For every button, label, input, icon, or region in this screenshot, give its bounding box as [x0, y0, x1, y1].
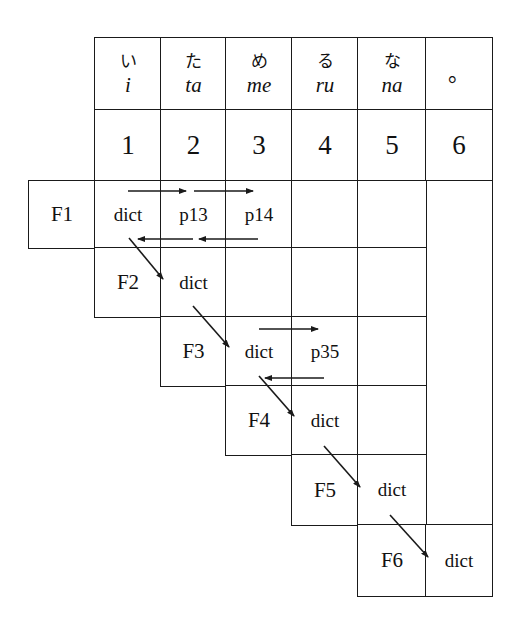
- cell-f2-4: [291, 247, 359, 318]
- index-2: 2: [160, 109, 227, 182]
- index-5: 5: [357, 109, 427, 182]
- romaji: ta: [185, 72, 201, 98]
- cell-f6-6: dict: [425, 524, 493, 597]
- cell-f5-5: dict: [357, 454, 427, 526]
- header-col-4: る ru: [291, 37, 359, 111]
- romaji: i: [125, 72, 131, 98]
- romaji: na: [382, 72, 403, 98]
- cell-f1-5: [357, 180, 427, 249]
- romaji: me: [247, 72, 272, 98]
- kana: な: [384, 50, 401, 72]
- cell-f2-3: [225, 247, 293, 318]
- cell-f3-3: dict: [225, 316, 293, 387]
- cell-f4-5: [357, 385, 427, 456]
- index-3: 3: [225, 109, 293, 182]
- cell-f3-4: p35: [291, 316, 359, 387]
- row-label-f2: F2: [94, 247, 162, 318]
- row-label-f5: F5: [291, 454, 359, 526]
- cell-f1-4: [291, 180, 359, 249]
- cell-f4-4: dict: [291, 385, 359, 456]
- row-label-f3: F3: [160, 316, 227, 387]
- kana: た: [185, 50, 202, 72]
- index-1: 1: [94, 109, 162, 182]
- row-label-f4: F4: [225, 385, 293, 456]
- header-col-6: 。: [425, 37, 493, 111]
- row-label-f1: F1: [28, 180, 96, 249]
- index-4: 4: [291, 109, 359, 182]
- col-6-span: [425, 180, 493, 526]
- kana: め: [251, 50, 268, 72]
- cell-f1-3: p14: [225, 180, 293, 249]
- row-label-f6: F6: [357, 524, 427, 597]
- header-col-3: め me: [225, 37, 293, 111]
- kana: る: [317, 50, 334, 72]
- period-mark: 。: [448, 61, 470, 87]
- cell-f1-1: dict: [94, 180, 162, 249]
- cell-f2-5: [357, 247, 427, 318]
- header-col-2: た ta: [160, 37, 227, 111]
- header-col-5: な na: [357, 37, 427, 111]
- index-6: 6: [425, 109, 493, 182]
- header-col-1: い i: [94, 37, 162, 111]
- cell-f1-2: p13: [160, 180, 227, 249]
- romaji: ru: [316, 72, 335, 98]
- kana: い: [120, 50, 137, 72]
- cell-f3-5: [357, 316, 427, 387]
- cell-f2-2: dict: [160, 247, 227, 318]
